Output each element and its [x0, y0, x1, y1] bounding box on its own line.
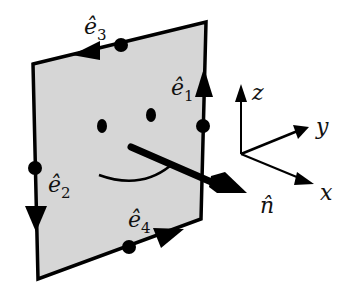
right-eye [146, 108, 156, 122]
y-axis [241, 130, 300, 154]
diagram-canvas: ê3 ê1 ê2 ê4 n̂ z y x [0, 0, 356, 293]
x-arrow-icon [294, 172, 314, 185]
normal-arrowhead-icon [209, 172, 247, 193]
label-normal: n̂ [260, 193, 274, 218]
coordinate-axes [235, 84, 314, 185]
x-axis [241, 154, 304, 180]
label-e3: ê3 [84, 14, 107, 44]
surface-diagram: ê3 ê1 ê2 ê4 n̂ z y x [0, 0, 356, 293]
label-z: z [251, 80, 264, 105]
surface-panel [33, 22, 206, 279]
z-arrow-icon [235, 84, 247, 102]
edge-point-e4 [122, 240, 136, 254]
label-y: y [315, 114, 329, 139]
left-eye [97, 119, 107, 133]
edge-point-e3 [114, 38, 128, 52]
arrow-e4-icon [153, 228, 184, 248]
edge-point-e1 [196, 119, 210, 133]
edge-point-e2 [28, 161, 42, 175]
label-x: x [320, 180, 333, 205]
